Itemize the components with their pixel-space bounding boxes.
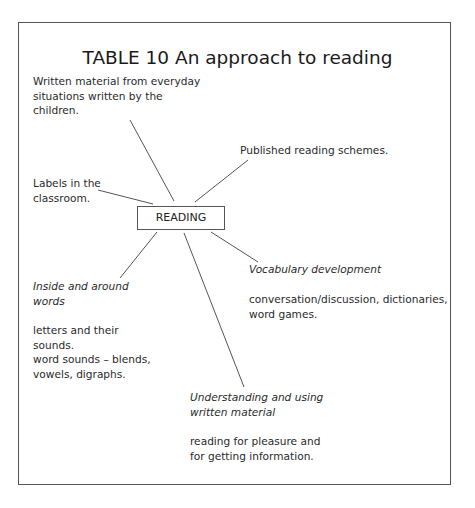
understanding-body: reading for pleasure and for getting inf… <box>190 434 320 463</box>
understanding-heading: Understanding and using written material <box>190 390 323 419</box>
inside-words-body: letters and their sounds. word sounds – … <box>33 323 151 381</box>
labels-classroom-text: Labels in the classroom. <box>33 176 101 205</box>
line-written-material <box>130 120 174 201</box>
line-understanding <box>184 233 244 387</box>
line-published <box>195 160 248 202</box>
published-schemes-text: Published reading schemes. <box>240 143 388 158</box>
vocabulary-body: conversation/discussion, dictionaries, w… <box>249 292 448 321</box>
inside-words-heading: Inside and around words <box>33 279 129 308</box>
reading-node: READING <box>137 206 225 230</box>
vocabulary-heading: Vocabulary development <box>249 262 381 277</box>
written-material-text: Written material from everyday situation… <box>33 74 200 118</box>
line-labels <box>98 190 153 204</box>
line-vocabulary <box>211 232 258 262</box>
line-inside-words <box>120 232 157 278</box>
